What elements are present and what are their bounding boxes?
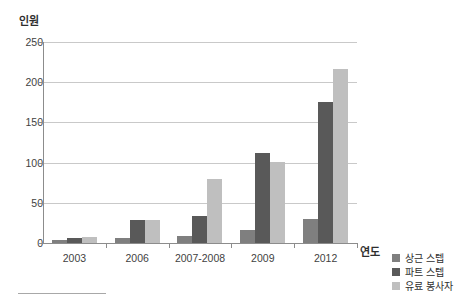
y-tick-label: 150 <box>9 116 43 128</box>
bar <box>207 179 222 243</box>
x-axis-title: 연도 <box>360 243 380 259</box>
bar-chart: 인원 연도 050100150200250 200320062007-20082… <box>0 0 467 302</box>
bar <box>177 236 192 243</box>
x-tick-mark <box>169 243 170 248</box>
legend-item[interactable]: 파트 스텝 <box>392 265 464 278</box>
legend-swatch-icon <box>392 282 400 290</box>
x-tick-mark <box>294 243 295 248</box>
bar <box>270 162 285 243</box>
x-tick-mark <box>231 243 232 248</box>
bar-group <box>106 42 169 243</box>
y-axis-ticks: 050100150200250 <box>0 42 43 243</box>
y-axis-line <box>43 42 44 244</box>
x-tick-label: 2003 <box>63 252 86 264</box>
x-axis-line <box>43 243 358 244</box>
x-tick-mark <box>357 243 358 248</box>
x-tick-mark <box>106 243 107 248</box>
bar <box>130 220 145 243</box>
bar <box>318 102 333 244</box>
y-axis-title: 인원 <box>19 12 39 28</box>
legend-swatch-icon <box>392 254 400 262</box>
legend-label: 유료 봉사자 <box>405 278 453 293</box>
bar <box>145 220 160 243</box>
x-tick-label: 2009 <box>251 252 274 264</box>
legend-label: 상근 스텝 <box>405 250 444 265</box>
footer-divider <box>18 293 106 294</box>
legend: 상근 스텝파트 스텝유료 봉사자 <box>392 251 464 293</box>
bar <box>240 230 255 243</box>
bar-group <box>169 42 232 243</box>
bar <box>255 153 270 243</box>
plot-area <box>43 42 357 243</box>
y-tick-label: 0 <box>9 237 43 249</box>
bar-group <box>231 42 294 243</box>
bar <box>192 216 207 243</box>
y-tick-label: 50 <box>9 197 43 209</box>
y-tick-label: 250 <box>9 36 43 48</box>
x-tick-label: 2012 <box>314 252 337 264</box>
legend-label: 파트 스텝 <box>405 264 444 279</box>
legend-swatch-icon <box>392 268 400 276</box>
bar <box>333 69 348 243</box>
y-tick-label: 200 <box>9 76 43 88</box>
x-tick-label: 2007-2008 <box>175 252 225 264</box>
bar <box>303 219 318 243</box>
bar-group <box>43 42 106 243</box>
x-tick-label: 2006 <box>126 252 149 264</box>
legend-item[interactable]: 유료 봉사자 <box>392 279 464 292</box>
bar-group <box>294 42 357 243</box>
legend-item[interactable]: 상근 스텝 <box>392 251 464 264</box>
y-tick-label: 100 <box>9 157 43 169</box>
